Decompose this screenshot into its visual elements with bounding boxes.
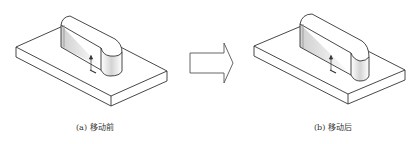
part-after-move: [254, 14, 405, 104]
part-before-move: [16, 16, 167, 106]
caption-after-move: (b) 移动后: [314, 121, 352, 132]
figure-canvas: [0, 0, 419, 144]
hollow-right-arrow-icon: [190, 43, 233, 83]
caption-before-move: (a) 移动前: [76, 121, 114, 132]
